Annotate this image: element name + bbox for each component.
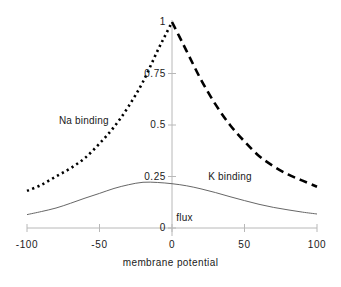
y-tick-label: 0 bbox=[106, 223, 166, 233]
series-label-k-binding: K binding bbox=[208, 172, 252, 182]
x-tick-label: 0 bbox=[142, 240, 202, 250]
x-tick-label: -50 bbox=[70, 240, 130, 250]
y-tick-label: 0.75 bbox=[106, 69, 166, 79]
x-tick-label: 100 bbox=[287, 240, 341, 250]
chart-figure: -100-5005010000.250.50.751 Na binding K … bbox=[0, 0, 341, 287]
x-axis-title: membrane potential bbox=[0, 258, 341, 268]
x-tick-label: 50 bbox=[215, 240, 275, 250]
series-line-na-binding bbox=[27, 22, 172, 191]
y-tick-label: 1 bbox=[106, 17, 166, 27]
series-line-k-binding bbox=[172, 22, 317, 187]
series-label-flux: flux bbox=[176, 213, 192, 223]
y-tick-label: 0.5 bbox=[106, 120, 166, 130]
x-tick-label: -100 bbox=[0, 240, 57, 250]
y-tick-label: 0.25 bbox=[106, 172, 166, 182]
series-label-na-binding: Na binding bbox=[59, 116, 109, 126]
